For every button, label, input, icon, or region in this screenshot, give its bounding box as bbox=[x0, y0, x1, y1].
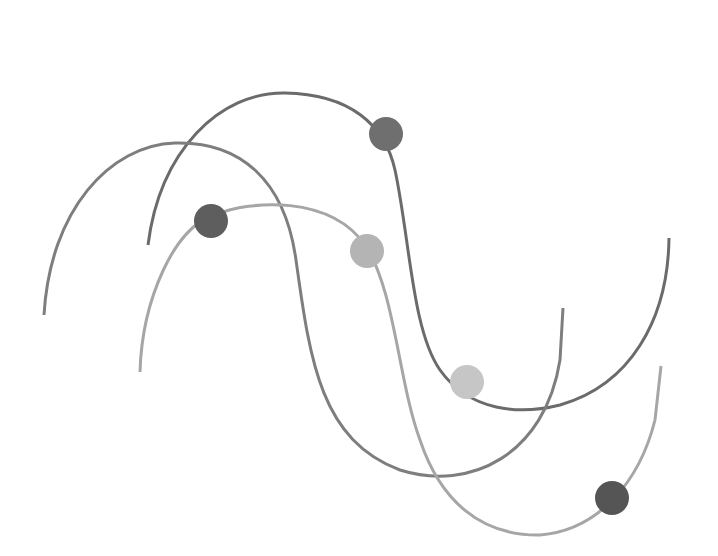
wave-top-dark bbox=[148, 93, 669, 410]
wave-bottom-light bbox=[140, 205, 661, 535]
wave-middle-medium bbox=[44, 143, 563, 476]
wave-illustration bbox=[0, 0, 718, 556]
dot-top-right-dark bbox=[369, 117, 403, 151]
dot-left-dark bbox=[194, 204, 228, 238]
dot-center-light bbox=[350, 234, 384, 268]
dot-bottom-right-dark bbox=[595, 481, 629, 515]
wave-illustration-svg bbox=[0, 0, 718, 556]
dot-right-lighter bbox=[450, 365, 484, 399]
